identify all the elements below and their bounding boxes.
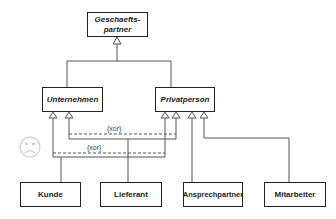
xor-constraint-label: {xor} [87, 144, 101, 151]
sad-face-icon [20, 137, 40, 157]
generalization-arrow [172, 112, 180, 118]
class-label: partner [104, 25, 132, 35]
class-privatperson: Privatperson [155, 87, 215, 112]
generalization-arrow [161, 112, 169, 118]
generalization-arrow [113, 37, 121, 44]
class-lieferant: Lieferant [100, 182, 162, 207]
class-kunde: Kunde [20, 182, 81, 207]
xor-constraint-label: {xor} [107, 125, 121, 132]
class-label: Lieferant [114, 190, 148, 200]
class-label: Geschaefts- [95, 15, 141, 25]
class-mitarbeiter: Mitarbeiter [264, 182, 326, 207]
generalization-arrow [188, 112, 196, 118]
class-label: Unternehmen [47, 95, 99, 105]
class-label: Mitarbeiter [275, 190, 316, 200]
generalization-arrow [65, 112, 73, 118]
class-label: Ansprechpartner [183, 190, 243, 200]
generalization-arrow [49, 112, 57, 118]
class-unternehmen: Unternehmen [42, 87, 103, 112]
class-geschaeftspartner: Geschaefts- partner [87, 12, 148, 37]
class-ansprechpartner: Ansprechpartner [183, 182, 243, 207]
class-label: Kunde [38, 190, 63, 200]
class-label: Privatperson [161, 95, 210, 105]
generalization-arrow [200, 112, 208, 118]
